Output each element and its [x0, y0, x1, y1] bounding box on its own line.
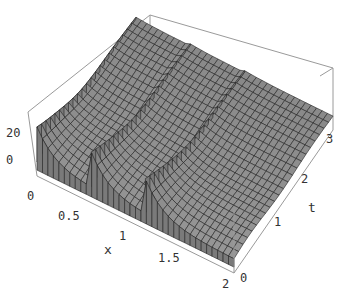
x-tick-0: 0: [27, 189, 34, 203]
t-tick-3: 3: [326, 132, 333, 146]
x-tick-0.5: 0.5: [58, 209, 80, 223]
x-tick-2: 2: [222, 277, 229, 291]
surface-plot: 0 0.5 1 1.5 2 0 1 2 3 20 0 x t: [0, 0, 344, 292]
z-tick-0: 0: [6, 153, 13, 167]
t-axis-label: t: [308, 200, 316, 215]
t-tick-0: 0: [240, 271, 247, 285]
x-tick-1.5: 1.5: [158, 251, 180, 265]
x-tick-1: 1: [119, 229, 126, 243]
z-tick-20: 20: [6, 126, 20, 140]
t-tick-2: 2: [301, 172, 308, 186]
x-axis-label: x: [104, 242, 112, 257]
t-tick-1: 1: [274, 215, 281, 229]
